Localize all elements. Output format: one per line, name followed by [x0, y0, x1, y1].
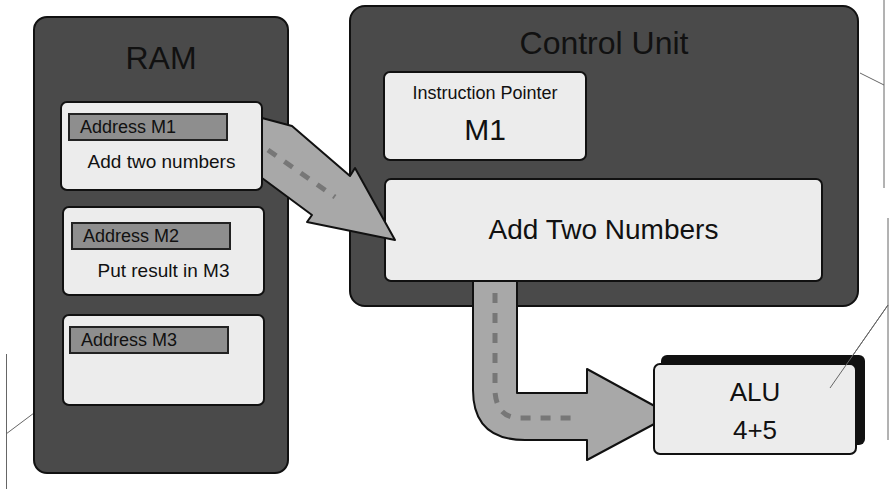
- ram-title: RAM: [35, 40, 287, 77]
- control-unit-title: Control Unit: [351, 25, 857, 62]
- control-unit-panel: Control Unit Instruction Pointer M1 Add …: [349, 5, 859, 307]
- current-instruction-text: Add Two Numbers: [386, 214, 821, 246]
- callout-line-left: [6, 354, 7, 489]
- ram-cell-m2: Address M2 Put result in M3: [62, 206, 265, 296]
- instruction-pointer-label: Instruction Pointer: [385, 83, 585, 104]
- instruction-pointer-box: Instruction Pointer M1: [383, 71, 587, 161]
- ram-cell-m1: Address M1 Add two numbers: [60, 101, 263, 191]
- address-label: Address M1: [68, 113, 228, 141]
- address-label: Address M3: [69, 326, 229, 354]
- alu-box: ALU 4+5: [653, 363, 857, 455]
- instruction-pointer-value: M1: [385, 113, 585, 147]
- execute-arrow-icon: [473, 281, 671, 460]
- alu-label: ALU: [655, 377, 855, 408]
- alu-operation: 4+5: [655, 415, 855, 446]
- address-label: Address M2: [71, 222, 231, 250]
- cell-content: Add two numbers: [62, 151, 261, 173]
- current-instruction-box: Add Two Numbers: [384, 178, 823, 282]
- cell-content: Put result in M3: [64, 260, 263, 282]
- ram-cell-m3: Address M3: [62, 314, 265, 406]
- ram-panel: RAM Address M1 Add two numbers Address M…: [33, 16, 289, 474]
